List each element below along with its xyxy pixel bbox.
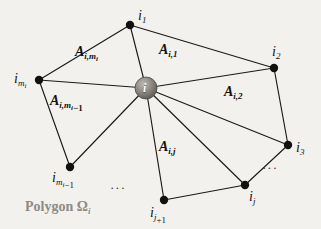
region-label-Ai1: Ai,1 bbox=[159, 43, 178, 57]
vertex-subtail: −1 bbox=[64, 180, 74, 190]
node-ij1 bbox=[160, 196, 168, 204]
node-im1 bbox=[66, 163, 74, 171]
region-sub2: i bbox=[96, 55, 98, 63]
region-sub: i,1 bbox=[168, 49, 177, 59]
region-base: A bbox=[50, 93, 59, 108]
vertex-sub: j+1 bbox=[154, 212, 166, 222]
node-imi bbox=[35, 76, 43, 84]
figure-caption: Polygon Ωi bbox=[25, 200, 90, 214]
vertex-subtail: +1 bbox=[156, 215, 166, 225]
ellipsis-right: ··· bbox=[262, 161, 278, 174]
vertex-label-i1: i1 bbox=[138, 9, 146, 23]
region-sub: i,mi−1 bbox=[59, 100, 82, 110]
node-ij bbox=[241, 181, 249, 189]
region-sub: i,j bbox=[168, 146, 175, 156]
region-base: A bbox=[224, 84, 233, 99]
mesh-graphics bbox=[0, 0, 321, 229]
node-i2 bbox=[270, 64, 278, 72]
region-base: A bbox=[75, 44, 84, 59]
region-base: A bbox=[159, 139, 168, 154]
spoke-hub-imi bbox=[39, 80, 146, 88]
vertex-label-imi: imi bbox=[14, 72, 26, 86]
vertex-sub: mi−1 bbox=[56, 177, 74, 187]
region-label-Aij: Ai,j bbox=[159, 140, 176, 154]
hub-label: i bbox=[143, 82, 146, 94]
vertex-label-ij: ij bbox=[249, 190, 255, 204]
vertex-label-i2: i2 bbox=[272, 45, 280, 59]
vertex-label-im1: imi−1 bbox=[52, 171, 74, 185]
node-i1 bbox=[126, 21, 134, 29]
vertex-sub: mi bbox=[18, 78, 26, 88]
vertex-sub: 2 bbox=[276, 51, 281, 61]
node-i3 bbox=[284, 141, 292, 149]
region-base: A bbox=[159, 42, 168, 57]
vertex-sub: 3 bbox=[300, 147, 305, 157]
edge-i1-i2 bbox=[130, 25, 274, 68]
spoke-hub-i2 bbox=[146, 68, 274, 88]
figure-canvas: i i1 i2 i3 ij ij+1 imi−1 imi Ai,mi Ai,1 … bbox=[0, 0, 321, 229]
vertex-label-ij1: ij+1 bbox=[150, 206, 166, 220]
ellipsis-bottom: ··· bbox=[110, 181, 126, 194]
caption-word: Polygon bbox=[25, 199, 73, 214]
region-sub: i,mi bbox=[84, 51, 98, 61]
vertex-sub: 1 bbox=[142, 15, 147, 25]
spoke-hub-ij bbox=[146, 88, 245, 185]
region-label-Aimi: Ai,mi bbox=[75, 45, 98, 59]
region-label-Ai2: Ai,2 bbox=[224, 85, 243, 99]
vertex-label-i3: i3 bbox=[296, 141, 304, 155]
edge-i2-i3 bbox=[274, 68, 288, 145]
region-subtail: −1 bbox=[73, 103, 83, 113]
caption-symbol: Ω bbox=[77, 199, 88, 214]
region-label-Aim1: Ai,mi−1 bbox=[50, 94, 83, 108]
vertex-sub: j bbox=[253, 196, 256, 206]
spoke-hub-i3 bbox=[146, 88, 288, 145]
region-sub: i,2 bbox=[233, 91, 242, 101]
edge-ij-ij1 bbox=[164, 185, 245, 200]
